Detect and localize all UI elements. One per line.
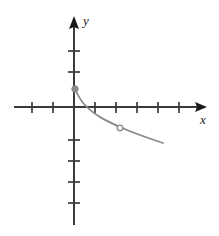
y-axis-label: y [81,13,89,28]
open-point-marker [117,125,123,131]
curve-exponential-decay [75,89,163,143]
graph-figure: y x [0,0,219,236]
coordinate-plane: y x [0,0,219,236]
closed-point-marker [72,86,78,92]
x-axis-label: x [199,112,206,127]
